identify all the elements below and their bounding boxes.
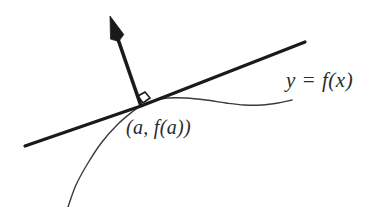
point-label: (a, f(a)) bbox=[126, 117, 191, 137]
function-label: y = f(x) bbox=[286, 70, 353, 91]
diagram-canvas bbox=[0, 0, 384, 207]
figure-background bbox=[0, 0, 384, 207]
math-figure: y = f(x) (a, f(a)) bbox=[0, 0, 384, 207]
